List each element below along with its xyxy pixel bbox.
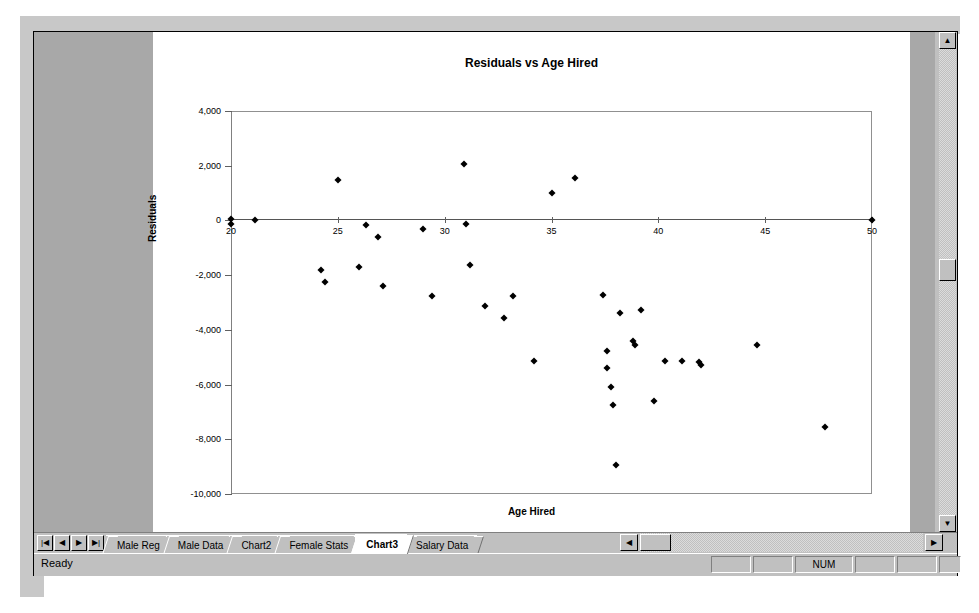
x-tick-label: 25 — [333, 226, 343, 236]
x-tick-label: 45 — [760, 226, 770, 236]
status-message: Ready — [41, 557, 341, 573]
horizontal-scrollbar-thumb[interactable] — [640, 534, 671, 551]
y-tick — [225, 494, 232, 495]
status-panel-1 — [753, 556, 793, 573]
sheet-tab-chart2[interactable]: Chart2 — [230, 535, 280, 554]
status-panel-num: NUM — [795, 556, 853, 573]
y-tick-label: -10,000 — [153, 489, 221, 499]
chart-right-gutter — [910, 32, 935, 532]
status-panel-0 — [711, 556, 751, 573]
y-tick-label: 0 — [153, 215, 221, 225]
horizontal-scrollbar-track[interactable] — [640, 533, 923, 552]
scroll-right-button[interactable]: ▶ — [925, 534, 943, 551]
y-tick — [225, 439, 232, 440]
x-tick — [552, 217, 553, 223]
scroll-left-button[interactable]: ◀ — [620, 534, 638, 551]
chart-title: Residuals vs Age Hired — [153, 56, 910, 70]
y-tick — [225, 385, 232, 386]
x-tick — [338, 217, 339, 223]
scroll-down-button[interactable]: ▼ — [939, 515, 956, 532]
vertical-scrollbar-thumb[interactable] — [939, 259, 956, 281]
x-tick — [445, 217, 446, 223]
x-tick-label: 30 — [440, 226, 450, 236]
x-tick — [765, 217, 766, 223]
status-bar: Ready NUM — [34, 553, 957, 576]
x-tick-label: 20 — [226, 226, 236, 236]
sheet-tab-chart3[interactable]: Chart3 — [355, 534, 407, 554]
x-tick-label: 50 — [867, 226, 877, 236]
chart-left-gutter — [34, 32, 153, 532]
sheet-nav-next[interactable]: ▶ — [71, 535, 87, 551]
sheet-tab-male-reg[interactable]: Male Reg — [106, 535, 169, 554]
sheet-tab-male-data[interactable]: Male Data — [167, 535, 233, 554]
x-tick — [658, 217, 659, 223]
y-tick — [225, 275, 232, 276]
y-tick-label: -8,000 — [153, 434, 221, 444]
sheet-nav-last[interactable]: ▶| — [88, 535, 104, 551]
y-tick — [225, 166, 232, 167]
x-tick-label: 35 — [546, 226, 556, 236]
y-tick-label: 2,000 — [153, 161, 221, 171]
y-tick-label: -4,000 — [153, 325, 221, 335]
plot-area[interactable] — [231, 111, 872, 494]
status-panel-3 — [855, 556, 895, 573]
y-tick-label: -6,000 — [153, 380, 221, 390]
y-tick-label: 4,000 — [153, 106, 221, 116]
sheet-tabs: Male RegMale DataChart2Female StatsChart… — [106, 534, 475, 554]
y-tick — [225, 111, 232, 112]
scroll-up-button[interactable]: ▲ — [939, 32, 956, 49]
status-panel-4 — [897, 556, 937, 573]
chart-sheet-canvas[interactable]: Residuals vs Age Hired Residuals Age Hir… — [153, 32, 910, 532]
sheet-tab-salary-data[interactable]: Salary Data — [405, 535, 477, 554]
status-panel-5 — [939, 556, 961, 573]
x-tick-label: 40 — [653, 226, 663, 236]
sheet-nav-first[interactable]: |◀ — [37, 535, 53, 551]
sheet-tab-female-stats[interactable]: Female Stats — [278, 535, 357, 554]
sheet-nav-prev[interactable]: ◀ — [54, 535, 70, 551]
y-tick — [225, 330, 232, 331]
excel-chart-window: Residuals vs Age Hired Residuals Age Hir… — [33, 31, 958, 576]
x-axis-title: Age Hired — [153, 506, 910, 517]
vertical-scrollbar-track[interactable] — [939, 49, 956, 515]
y-axis-line — [231, 111, 232, 494]
horizontal-scrollbar[interactable]: ◀ ▶ — [606, 533, 957, 552]
vertical-scrollbar[interactable]: ▲ ▼ — [939, 32, 956, 532]
y-tick-label: -2,000 — [153, 270, 221, 280]
